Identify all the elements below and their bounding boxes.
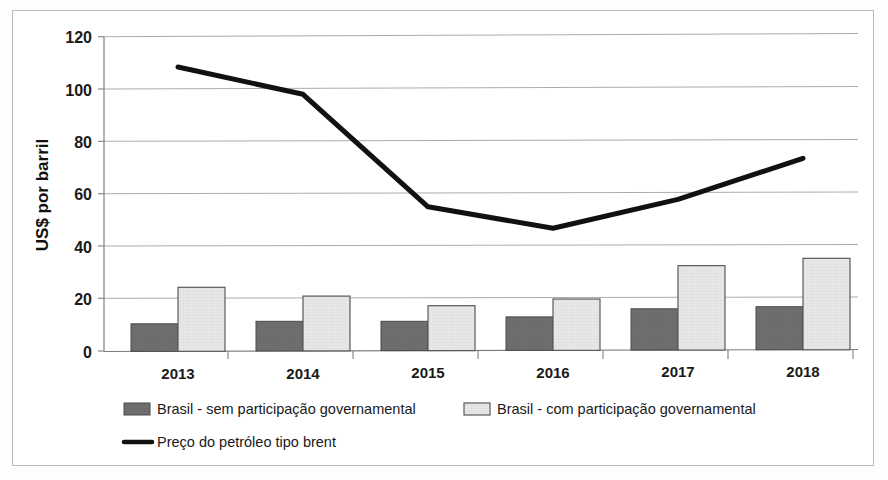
legend-label-com-participacao: Brasil - com participação governamental [497, 401, 756, 417]
xtick-2013: 2013 [161, 365, 194, 382]
bar-com-2017 [678, 266, 725, 351]
legend-swatch-dark-icon [124, 403, 150, 415]
legend-item-brent[interactable]: Preço do petróleo tipo brent [124, 434, 336, 450]
xtick-2018: 2018 [786, 363, 819, 380]
ytick-60: 60 [74, 186, 92, 203]
bar-com-2016 [553, 299, 600, 350]
ytick-100: 100 [65, 82, 92, 99]
legend-label-brent: Preço do petróleo tipo brent [157, 434, 336, 450]
legend-item-sem-participacao[interactable]: Brasil - sem participação governamental [124, 401, 416, 417]
bar-sem-2017 [631, 309, 678, 350]
xtick-2015: 2015 [411, 364, 444, 381]
y-axis-tick-labels: 120 100 80 60 40 20 0 [65, 29, 92, 361]
bar-sem-2014 [256, 321, 303, 351]
y-axis-title: US$ por barril [33, 139, 52, 251]
xtick-2014: 2014 [286, 365, 320, 382]
combo-chart-canvas: 120 100 80 60 40 20 0 US$ por barril [0, 0, 888, 480]
bar-sem-2015 [381, 321, 428, 350]
ytick-0: 0 [83, 344, 92, 361]
bar-com-2014 [303, 296, 350, 351]
legend-swatch-light-icon [464, 403, 490, 415]
bar-com-2015 [428, 306, 475, 351]
bar-com-2018 [803, 258, 850, 350]
x-axis-tick-labels: 2013 2014 2015 2016 2017 2018 [161, 363, 819, 382]
xtick-2017: 2017 [661, 363, 694, 380]
legend-label-sem-participacao: Brasil - sem participação governamental [157, 401, 416, 417]
ytick-20: 20 [74, 291, 92, 308]
ytick-80: 80 [74, 134, 92, 151]
bar-sem-2013 [131, 324, 178, 352]
line-series-brent [178, 67, 803, 228]
bar-sem-2016 [506, 317, 553, 351]
ytick-40: 40 [74, 239, 92, 256]
bar-sem-2018 [756, 307, 803, 350]
ytick-120: 120 [65, 29, 92, 46]
chart-figure: 120 100 80 60 40 20 0 US$ por barril [0, 0, 888, 480]
legend-item-com-participacao[interactable]: Brasil - com participação governamental [464, 401, 756, 417]
xtick-2016: 2016 [536, 364, 569, 381]
chart-legend: Brasil - sem participação governamental … [124, 401, 756, 450]
bar-com-2013 [178, 287, 225, 351]
